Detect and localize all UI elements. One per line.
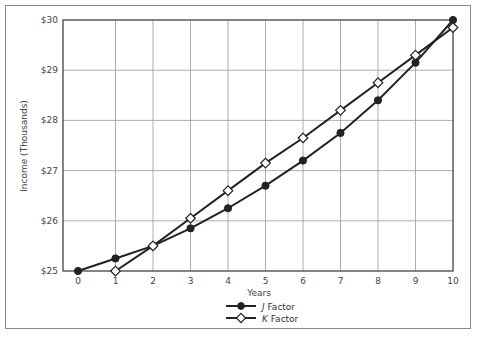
filled-circle-marker (74, 267, 81, 274)
x-tick-label: 3 (188, 276, 194, 286)
legend: J FactorK Factor (226, 302, 299, 324)
series-line (116, 28, 454, 271)
legend-label: K Factor (262, 314, 299, 324)
y-tick-label: $26 (41, 216, 58, 226)
filled-circle-marker (374, 97, 381, 104)
x-tick-label: 4 (225, 276, 231, 286)
open-diamond-marker (236, 313, 245, 322)
x-tick-label: 0 (75, 276, 81, 286)
legend-item-j-factor: J Factor (226, 302, 295, 312)
x-tick-label: 9 (413, 276, 419, 286)
gridlines (63, 20, 453, 271)
series-k-factor (111, 23, 458, 276)
y-tick-label: $27 (41, 166, 58, 176)
filled-circle-marker (262, 182, 269, 189)
filled-circle-marker (112, 255, 119, 262)
y-tick-label: $25 (41, 266, 58, 276)
x-tick-label: 2 (150, 276, 156, 286)
filled-circle-marker (224, 205, 231, 212)
x-tick-label: 8 (375, 276, 381, 286)
y-axis-ticks: $25$26$27$28$29$30 (41, 15, 58, 276)
filled-circle-marker (299, 157, 306, 164)
y-axis-label: Income (Thousands) (19, 100, 29, 192)
line-chart: $25$26$27$28$29$30 012345678910 Income (… (0, 0, 478, 338)
y-tick-label: $28 (41, 115, 58, 125)
x-axis-ticks: 012345678910 (75, 276, 459, 286)
filled-circle-marker (187, 225, 194, 232)
x-axis-label: Years (246, 288, 271, 298)
x-tick-label: 7 (338, 276, 344, 286)
x-tick-label: 5 (263, 276, 269, 286)
y-tick-label: $29 (41, 65, 58, 75)
filled-circle-marker (337, 129, 344, 136)
x-tick-label: 10 (447, 276, 459, 286)
legend-label: J Factor (260, 302, 295, 312)
x-tick-label: 1 (113, 276, 119, 286)
y-tick-label: $30 (41, 15, 58, 25)
x-tick-label: 6 (300, 276, 306, 286)
data-series (74, 16, 457, 275)
filled-circle-marker (238, 303, 245, 310)
plot-area (63, 20, 453, 271)
legend-item-k-factor: K Factor (226, 313, 299, 323)
